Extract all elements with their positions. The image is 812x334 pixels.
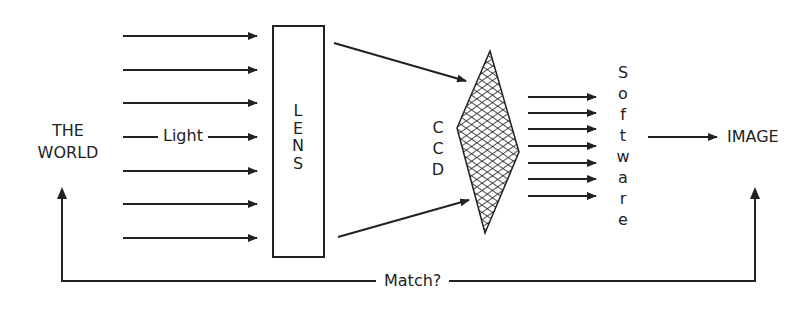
software-letter: o (612, 83, 634, 104)
ccd-letter: C (428, 138, 448, 159)
software-letter: r (612, 188, 634, 209)
match-label: Match? (376, 273, 449, 289)
software-letter: t (612, 125, 634, 146)
lens-letter: L (288, 102, 308, 120)
lens-letter: N (288, 137, 308, 155)
software-letter: S (612, 62, 634, 83)
image-label: IMAGE (727, 129, 779, 145)
software-letter: a (612, 167, 634, 188)
software-letter: e (612, 209, 634, 230)
the-world-line1: THE (30, 120, 106, 142)
the-world-label: THE WORLD (30, 120, 106, 164)
software-letter: w (612, 146, 634, 167)
ccd-letter: C (428, 117, 448, 138)
ccd-label: C C D (428, 117, 448, 180)
the-world-line2: WORLD (30, 142, 106, 164)
lens-letter: S (288, 155, 308, 173)
lens-letter: E (288, 120, 308, 138)
ccd-letter: D (428, 159, 448, 180)
diagram-canvas: THE WORLD Light L E N S C C D S o f t w … (0, 0, 812, 334)
software-label: S o f t w a r e (612, 62, 634, 230)
lens-label: L E N S (288, 102, 308, 172)
light-label: Light (158, 128, 208, 144)
software-letter: f (612, 104, 634, 125)
